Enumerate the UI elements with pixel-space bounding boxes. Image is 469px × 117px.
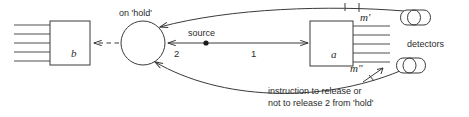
label-instruction-line1: instruction to release or bbox=[268, 85, 362, 97]
label-path-two: 2 bbox=[174, 48, 179, 59]
diagram-canvas: on 'hold' source b a 2 1 m' m″ detectors… bbox=[0, 0, 469, 117]
upper-curve-tick-marks bbox=[345, 3, 359, 12]
box-b bbox=[50, 21, 90, 65]
label-source: source bbox=[188, 28, 215, 39]
label-instruction-line2: not to release 2 from 'hold' bbox=[268, 97, 374, 109]
label-detectors: detectors bbox=[407, 39, 444, 50]
label-path-one: 1 bbox=[251, 48, 256, 59]
hold-circle bbox=[121, 21, 165, 65]
detector-upper bbox=[401, 10, 431, 25]
lower-curve-tick-marks bbox=[363, 68, 383, 82]
box-a-beam-lines bbox=[353, 26, 390, 62]
label-m-prime: m' bbox=[360, 12, 370, 23]
label-m-double-prime: m″ bbox=[350, 63, 363, 74]
label-box-a: a bbox=[331, 49, 337, 60]
label-on-hold: on 'hold' bbox=[119, 8, 152, 19]
source-point bbox=[203, 40, 208, 45]
label-box-b: b bbox=[71, 48, 77, 59]
detector-lower bbox=[397, 58, 426, 73]
box-b-beam-lines bbox=[14, 25, 50, 61]
